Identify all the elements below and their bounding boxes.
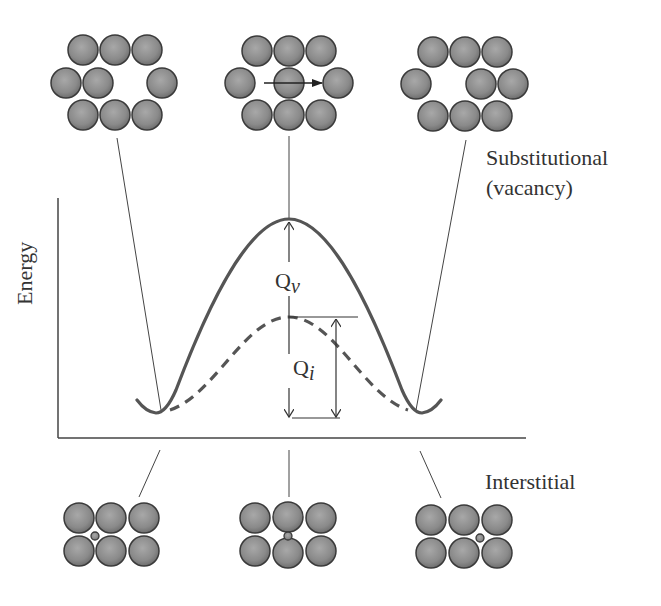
- qv-label-sub: v: [291, 275, 300, 297]
- qv-label-main: Q: [275, 268, 291, 293]
- vacancy-transition-cluster: [225, 36, 353, 130]
- vacancy-initial-cluster: [51, 35, 177, 130]
- interstitial-atom: [476, 534, 484, 542]
- qi-label-main: Q: [293, 355, 309, 380]
- interstitial-atom: [284, 532, 292, 540]
- substitutional-label-line2: (vacancy): [486, 173, 608, 203]
- diffusion-energy-diagram: [0, 0, 661, 606]
- qv-label: Qv: [275, 268, 300, 294]
- interstitial-transition-cluster: [240, 502, 336, 568]
- qi-label-sub: i: [309, 362, 315, 384]
- substitutional-label-line1: Substitutional: [486, 143, 608, 173]
- interstitial-label: Interstitial: [485, 469, 575, 495]
- bottom-leader-lines: [139, 450, 441, 498]
- interstitial-atom: [91, 532, 99, 540]
- interstitial-final-cluster: [416, 505, 512, 568]
- interstitial-initial-cluster: [64, 503, 159, 566]
- y-axis-label: Energy: [12, 242, 38, 305]
- substitutional-label: Substitutional (vacancy): [486, 143, 608, 203]
- vacancy-final-cluster: [401, 37, 528, 131]
- qi-label: Qi: [293, 355, 314, 381]
